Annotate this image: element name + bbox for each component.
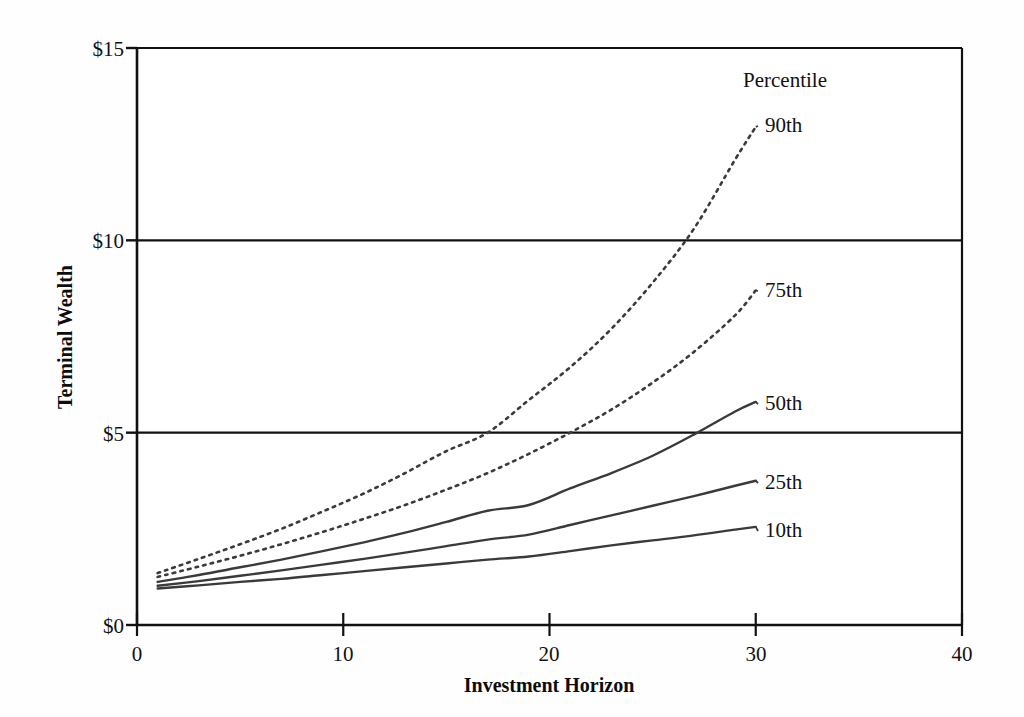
series-label-50th: 50th bbox=[765, 391, 803, 415]
x-tick-label-40: 40 bbox=[952, 642, 973, 666]
y-axis-ticks bbox=[126, 48, 137, 625]
x-tick-label-20: 20 bbox=[539, 642, 560, 666]
leader-line-75th bbox=[756, 290, 758, 291]
y-tick-label-5: $5 bbox=[103, 422, 124, 446]
series-label-10th: 10th bbox=[765, 518, 803, 542]
x-tick-label-30: 30 bbox=[746, 642, 767, 666]
y-tick-label-10: $10 bbox=[93, 229, 125, 253]
series-label-90th: 90th bbox=[765, 113, 803, 137]
y-tick-label-0: $0 bbox=[103, 614, 124, 638]
y-tick-label-15: $15 bbox=[93, 37, 125, 61]
plot-area-background bbox=[137, 48, 962, 625]
x-tick-label-0: 0 bbox=[132, 642, 143, 666]
leader-line-90th bbox=[756, 126, 758, 127]
x-axis-title: Investment Horizon bbox=[464, 674, 635, 696]
series-label-25th: 25th bbox=[765, 470, 803, 494]
x-tick-label-10: 10 bbox=[333, 642, 354, 666]
chart-page: $15 $10 $5 $0 0 10 20 30 40 Investment H… bbox=[0, 0, 1024, 717]
terminal-wealth-line-chart: $15 $10 $5 $0 0 10 20 30 40 Investment H… bbox=[0, 0, 1024, 717]
series-label-75th: 75th bbox=[765, 278, 803, 302]
y-axis-title: Terminal Wealth bbox=[54, 265, 76, 409]
legend-title: Percentile bbox=[743, 68, 827, 92]
